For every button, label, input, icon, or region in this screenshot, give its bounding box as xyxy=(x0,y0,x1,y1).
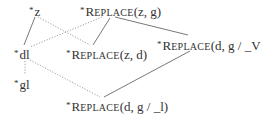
fn-initial: R xyxy=(86,4,95,19)
edge-z-replace-zd xyxy=(38,17,90,45)
node-dl: *dl xyxy=(14,46,30,62)
star-marker: * xyxy=(14,48,19,58)
star-marker: * xyxy=(157,39,162,49)
node-label: dl xyxy=(20,47,30,62)
star-marker: * xyxy=(66,100,71,110)
fn-args: (z, d) xyxy=(120,47,147,62)
node-z: *z xyxy=(29,3,40,19)
star-marker: * xyxy=(66,48,71,58)
edge-dl-replace-dg-l xyxy=(30,60,100,97)
fn-initial: R xyxy=(72,99,81,114)
node-label: z xyxy=(35,4,41,19)
star-marker: * xyxy=(29,5,34,15)
node-replace-zg: *REPLACE(z, g) xyxy=(80,3,161,20)
star-marker: * xyxy=(80,5,85,15)
fn-rest: EPLACE xyxy=(171,41,211,52)
fn-initial: R xyxy=(72,47,81,62)
node-replace-zd: *REPLACE(z, d) xyxy=(66,46,147,63)
fn-args: (d, g / _V xyxy=(211,38,261,53)
fn-rest: EPLACE xyxy=(80,102,120,113)
fn-args: (d, g / _l) xyxy=(120,99,168,114)
edge-replace-zg-replace-zd xyxy=(93,18,110,45)
star-marker: * xyxy=(14,78,19,88)
fn-rest: EPLACE xyxy=(80,50,120,61)
fn-initial: R xyxy=(163,38,172,53)
node-replace-dg-v: *REPLACE(d, g / _V xyxy=(157,37,261,54)
fn-rest: EPLACE xyxy=(94,7,134,18)
node-gl: *gl xyxy=(14,76,30,92)
node-replace-dg-l: *REPLACE(d, g / _l) xyxy=(66,98,168,115)
fn-args: (z, g) xyxy=(134,4,161,19)
edge-z-dl xyxy=(24,17,35,45)
node-label: gl xyxy=(20,77,30,92)
